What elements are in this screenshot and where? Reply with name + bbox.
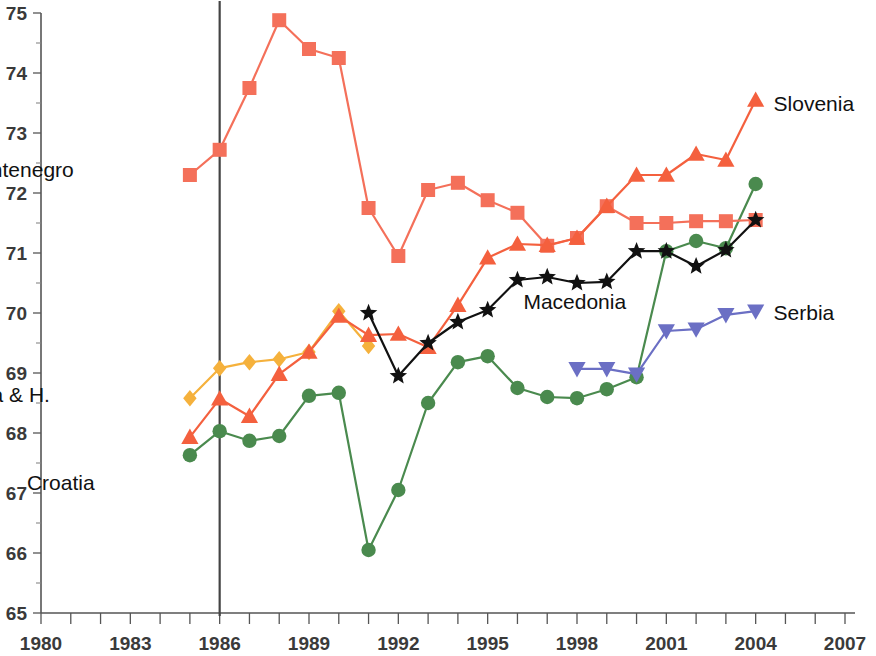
data-point-marker — [689, 234, 703, 248]
data-point-marker — [747, 91, 764, 106]
data-point-marker — [509, 235, 526, 250]
y-axis-tick-label: 69 — [6, 363, 27, 384]
series-line — [190, 184, 756, 550]
data-point-marker — [302, 42, 316, 56]
data-point-marker — [271, 366, 288, 381]
y-axis-tick-label: 65 — [6, 603, 28, 624]
x-axis-tick-label: 1983 — [109, 633, 151, 654]
data-point-marker — [538, 268, 556, 285]
data-point-marker — [451, 176, 465, 190]
data-point-marker — [361, 543, 375, 557]
series-label-bosnia-h: Bosnia & H. — [0, 383, 50, 406]
series-montenegro — [183, 13, 763, 263]
series-croatia — [183, 177, 763, 557]
data-point-marker — [689, 214, 703, 228]
axes: 6566676869707172737475198019831986198919… — [6, 3, 866, 654]
data-point-marker — [302, 389, 316, 403]
data-point-marker — [510, 381, 524, 395]
data-point-marker — [421, 183, 435, 197]
data-point-marker — [748, 177, 762, 191]
data-point-marker — [449, 297, 466, 312]
x-axis-tick-label: 1998 — [556, 633, 598, 654]
data-point-marker — [362, 201, 376, 215]
x-axis-tick-label: 2001 — [645, 633, 688, 654]
x-axis-tick-label: 2004 — [735, 633, 778, 654]
x-axis-tick-label: 1989 — [288, 633, 330, 654]
y-axis-tick-label: 67 — [6, 483, 27, 504]
data-point-marker — [687, 257, 705, 274]
series-bosnia-h — [183, 303, 375, 406]
data-point-marker — [183, 168, 197, 182]
data-point-marker — [570, 391, 584, 405]
x-axis-tick-label: 1995 — [467, 633, 510, 654]
chart-container: 6566676869707172737475198019831986198919… — [0, 0, 876, 656]
data-point-marker — [568, 274, 586, 291]
data-point-marker — [330, 307, 347, 322]
data-point-marker — [630, 216, 644, 230]
data-point-marker — [719, 214, 733, 228]
data-point-marker — [481, 193, 495, 207]
data-point-marker — [421, 396, 435, 410]
data-point-marker — [479, 249, 496, 264]
series-label-croatia: Croatia — [27, 471, 95, 494]
data-point-marker — [659, 216, 673, 230]
line-chart-svg: 6566676869707172737475198019831986198919… — [0, 0, 876, 656]
y-axis-tick-label: 72 — [6, 183, 27, 204]
data-point-marker — [213, 143, 227, 157]
data-series-group — [181, 13, 764, 557]
data-point-marker — [241, 408, 258, 423]
data-point-marker — [600, 382, 614, 396]
y-axis-tick-label: 73 — [6, 123, 27, 144]
data-point-marker — [211, 390, 228, 405]
series-label-serbia: Serbia — [774, 301, 835, 324]
data-point-marker — [510, 206, 524, 220]
y-axis-tick-label: 75 — [6, 3, 28, 24]
data-point-marker — [391, 249, 405, 263]
series-serbia — [568, 304, 764, 382]
data-point-marker — [332, 51, 346, 65]
data-point-marker — [658, 324, 675, 339]
data-point-marker — [332, 386, 346, 400]
data-point-marker — [272, 429, 286, 443]
data-point-marker — [272, 351, 285, 367]
data-point-marker — [243, 354, 256, 370]
data-point-marker — [540, 390, 554, 404]
data-point-marker — [391, 483, 405, 497]
series-label-montenegro: Montenegro — [0, 158, 74, 181]
y-axis-tick-label: 66 — [6, 543, 27, 564]
data-point-marker — [451, 355, 465, 369]
data-point-marker — [272, 13, 286, 27]
x-axis-tick-label: 1986 — [199, 633, 241, 654]
data-point-marker — [242, 81, 256, 95]
series-slovenia — [181, 91, 764, 444]
data-point-marker — [183, 448, 197, 462]
y-axis-tick-label: 70 — [6, 303, 27, 324]
data-point-marker — [212, 424, 226, 438]
y-axis-tick-label: 71 — [6, 243, 28, 264]
data-point-marker — [688, 145, 705, 160]
data-point-marker — [480, 349, 494, 363]
data-point-marker — [717, 308, 734, 323]
x-axis-tick-label: 1992 — [377, 633, 419, 654]
x-axis-tick-label: 1980 — [20, 633, 62, 654]
data-point-marker — [360, 304, 378, 321]
y-axis-tick-label: 68 — [6, 423, 27, 444]
y-axis-tick-label: 74 — [6, 63, 28, 84]
x-axis-tick-label: 2007 — [824, 633, 866, 654]
series-line — [190, 100, 756, 437]
series-label-slovenia: Slovenia — [774, 92, 855, 115]
data-point-marker — [242, 434, 256, 448]
series-label-macedonia: Macedonia — [523, 290, 626, 313]
data-point-marker — [390, 325, 407, 340]
